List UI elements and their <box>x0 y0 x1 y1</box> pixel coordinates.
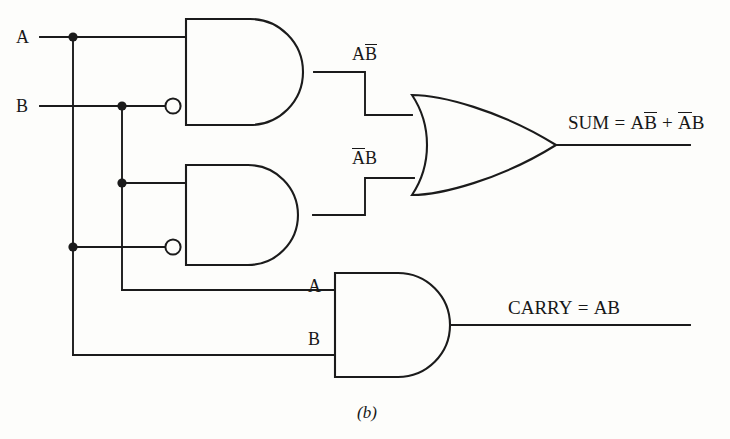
a-bar-b-overline: A <box>352 148 365 167</box>
gate-and-middle-inverter-bubble <box>165 239 180 254</box>
gate-or-sum-body <box>412 95 556 195</box>
input-label-b: B <box>16 97 28 115</box>
output-label-sum: SUM = AB + AB <box>568 112 704 132</box>
sum-term2-overline: A <box>678 112 692 132</box>
ab-bar-lead: A <box>352 44 365 64</box>
carry-gate-input-label-b: B <box>308 330 320 348</box>
junction-dot-b-top <box>117 101 126 110</box>
carry-gate-input-label-a: A <box>308 277 321 295</box>
wire-and-middle-output <box>313 178 414 215</box>
gate-and-carry-body <box>335 273 450 377</box>
carry-name: CARRY <box>508 297 572 318</box>
a-bar-b-tail: B <box>365 148 377 168</box>
gate-and-middle-body <box>186 165 298 265</box>
carry-term: AB <box>594 297 620 318</box>
junction-dot-a-top <box>68 32 77 41</box>
gate-and-top-inverter-bubble <box>165 98 180 113</box>
figure-canvas: A B A B AB AB SUM = AB + AB CARRY = AB (… <box>0 0 730 439</box>
output-label-carry: CARRY = AB <box>508 298 620 317</box>
junction-dot-a-lower <box>68 242 77 251</box>
wire-and-top-output <box>314 72 412 115</box>
intermediate-label-ab-bar: AB <box>352 44 377 63</box>
input-label-a: A <box>16 28 29 46</box>
gate-and-top-body <box>186 19 303 125</box>
logic-circuit-svg <box>0 0 730 439</box>
sum-term2-plain: B <box>692 112 705 133</box>
sum-term1-overline: B <box>644 112 657 132</box>
junction-dot-b-lower <box>117 178 126 187</box>
figure-caption: (b) <box>357 404 377 421</box>
intermediate-label-a-bar-b: AB <box>352 148 377 167</box>
ab-bar-overline: B <box>365 44 377 63</box>
sum-term1-plain: A <box>630 112 644 133</box>
sum-equals: = <box>614 112 625 133</box>
sum-plus: + <box>662 112 673 133</box>
sum-name: SUM <box>568 112 609 133</box>
carry-equals: = <box>578 297 589 318</box>
